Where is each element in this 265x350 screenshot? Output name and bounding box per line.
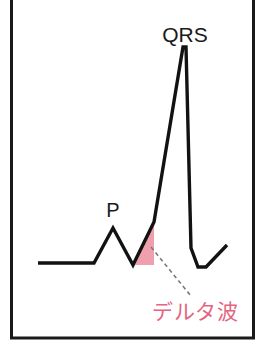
ecg-figure: QRS P デルタ波 (0, 0, 265, 350)
ecg-diagram-canvas: QRS P デルタ波 (0, 0, 265, 350)
figure-border (12, 0, 254, 338)
delta-wave-label: デルタ波 (152, 300, 238, 324)
qrs-label: QRS (162, 23, 208, 46)
p-wave-label: P (106, 199, 119, 221)
